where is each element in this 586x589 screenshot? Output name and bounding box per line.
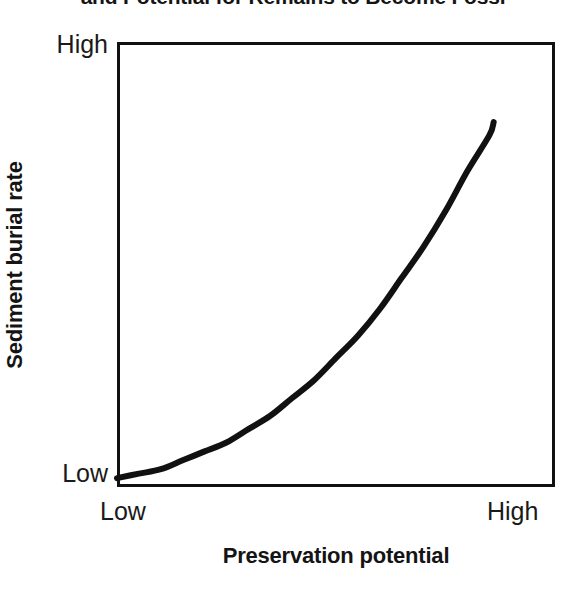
data-curve-line <box>117 122 494 478</box>
y-axis-tick-high: High <box>42 30 108 59</box>
chart-plot-svg <box>117 42 555 487</box>
y-axis-tick-low: Low <box>42 459 108 488</box>
y-axis-title-label: Sediment burial rate <box>2 161 28 369</box>
y-axis-title: Sediment burial rate <box>0 42 30 487</box>
x-axis-tick-low: Low <box>100 497 146 526</box>
chart-title: and Potential for Remains to Become Foss… <box>0 0 586 11</box>
x-axis-title: Preservation potential <box>117 543 555 569</box>
x-axis-tick-high: High <box>487 497 538 526</box>
